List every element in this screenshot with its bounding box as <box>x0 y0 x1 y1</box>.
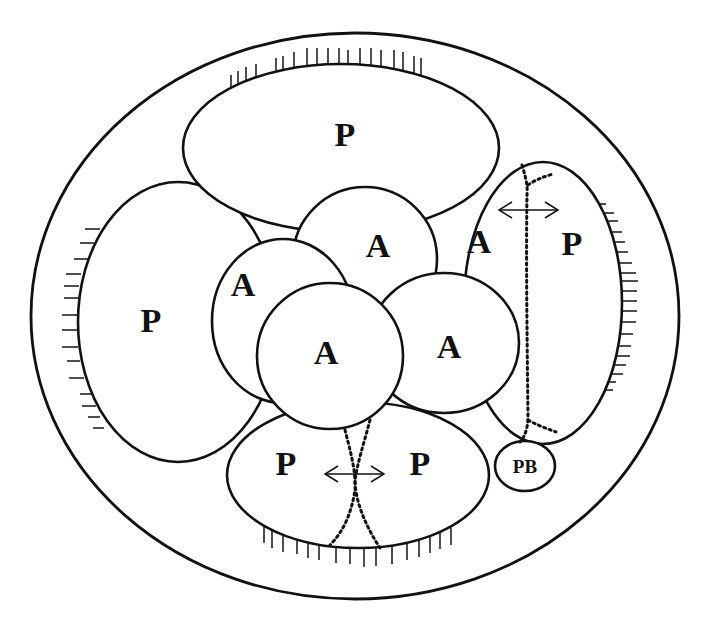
label-p-right: P <box>562 225 583 262</box>
label-p-bottom-left: P <box>276 445 297 482</box>
label-a-top: A <box>366 227 391 264</box>
label-p-left: P <box>141 302 162 339</box>
label-polar-body: PB <box>513 456 538 477</box>
label-a-right: A <box>437 328 462 365</box>
embryo-diagram: P P P P P A A A A A PB <box>0 0 706 625</box>
label-p-top: P <box>335 116 356 153</box>
label-a-right-outside: A <box>467 223 492 260</box>
label-p-bottom-right: P <box>410 445 431 482</box>
label-a-center: A <box>314 334 339 371</box>
label-a-left: A <box>231 266 256 303</box>
